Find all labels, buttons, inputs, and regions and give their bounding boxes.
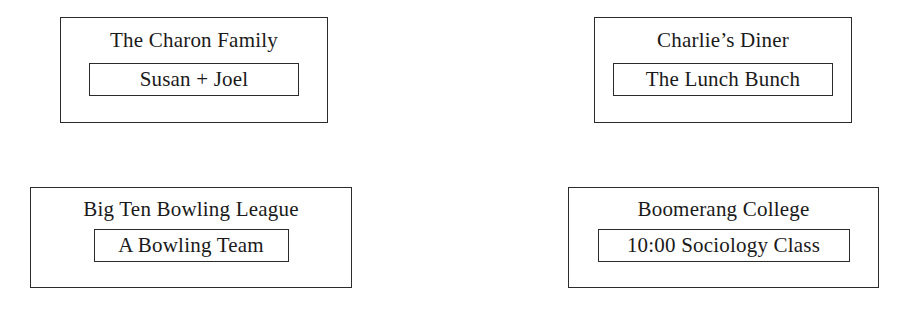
subgroup-label: 10:00 Sociology Class: [627, 235, 820, 256]
subgroup-label: The Lunch Bunch: [646, 69, 801, 90]
subgroup-box: The Lunch Bunch: [613, 63, 833, 96]
subgroup-label: Susan + Joel: [140, 69, 249, 90]
diagram-canvas: The Charon Family Susan + Joel Charlie’s…: [0, 0, 914, 314]
subgroup-box: Susan + Joel: [89, 63, 299, 96]
group-title: Charlie’s Diner: [657, 30, 789, 51]
subgroup-box: 10:00 Sociology Class: [598, 229, 850, 262]
group-title: The Charon Family: [110, 30, 278, 51]
group-box-bowling-league: Big Ten Bowling League A Bowling Team: [30, 187, 352, 288]
subgroup-box: A Bowling Team: [94, 229, 289, 262]
group-box-boomerang-college: Boomerang College 10:00 Sociology Class: [568, 187, 879, 288]
group-box-charlies-diner: Charlie’s Diner The Lunch Bunch: [594, 17, 852, 123]
subgroup-label: A Bowling Team: [118, 235, 264, 256]
group-box-charon-family: The Charon Family Susan + Joel: [60, 17, 328, 123]
group-title: Big Ten Bowling League: [83, 199, 298, 220]
group-title: Boomerang College: [638, 199, 810, 220]
